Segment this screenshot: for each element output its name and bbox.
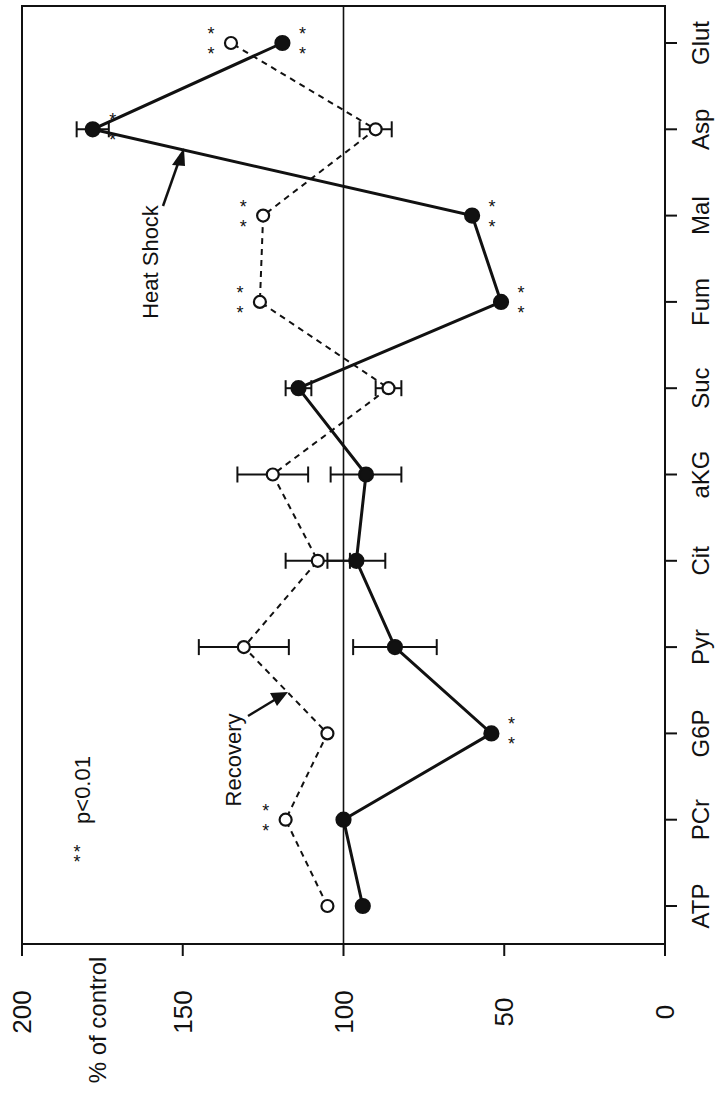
heat-shock-point [356,899,370,913]
significance-star: * [236,283,243,303]
significance-star: * [207,24,214,44]
recovery-point [254,296,266,308]
significance-star: * [240,197,247,217]
significance-star: * [109,130,116,150]
significance-star: * [299,24,306,44]
category-tick-label: G6P [687,709,714,757]
significance-star: * [299,44,306,64]
significance-star: * [240,217,247,237]
significance-star: * [489,197,496,217]
category-tick-label: Mal [687,196,714,235]
recovery-point [267,469,279,481]
p-value-note: p<0.01 [70,756,95,824]
significance-star: * [508,734,515,754]
category-tick-label: Fum [687,278,714,326]
category-tick-label: ATP [687,884,714,929]
recovery-arrowhead [270,692,288,706]
heat-shock-point [275,36,289,50]
significance-star: * [518,283,525,303]
category-tick-label: Glut [687,21,714,65]
heat-shock-label: Heat Shock [138,204,163,319]
value-tick-label: 150 [168,990,198,1033]
recovery-point [238,641,250,653]
category-tick-label: Suc [687,368,714,409]
heat-shock-point [484,726,498,740]
heat-shock-point [388,640,402,654]
heat-shock-point [86,122,100,136]
annotations: Heat ShockRecovery**p<0.01 [70,148,289,872]
value-tick-label: 100 [329,990,359,1033]
recovery-point [280,814,292,826]
heat-shock-arrowhead [172,148,185,166]
significance-star: * [518,303,525,323]
heat-shock-point [465,209,479,223]
significance-star: * [207,44,214,64]
significance-star: * [262,821,269,841]
significance-star: * [489,217,496,237]
recovery-label: Recovery [221,714,246,807]
category-tick-label: aKG [687,450,714,498]
heat-shock-point [337,813,351,827]
significance-star: * [508,714,515,734]
heat-shock-point [349,554,363,568]
heat-shock-point [359,468,373,482]
recovery-point [312,555,324,567]
category-tick-label: Asp [687,109,714,150]
heat-shock-point [494,295,508,309]
axis-ticks: 050100150200% of controlATPPCrG6PPyrCita… [7,21,714,1084]
category-tick-label: Cit [687,546,714,576]
recovery-point [321,727,333,739]
recovery-point [321,900,333,912]
recovery-point [225,37,237,49]
recovery-point [370,123,382,135]
recovery-point [383,382,395,394]
heat-shock-point [291,381,305,395]
p-value-star: * [73,842,80,862]
value-tick-label: 50 [489,998,519,1027]
value-tick-label: 200 [7,990,37,1033]
significance-star: * [236,303,243,323]
chart: 050100150200% of controlATPPCrG6PPyrCita… [0,0,728,1104]
significance-star: * [109,110,116,130]
recovery-point [257,210,269,222]
value-axis-label: % of control [84,957,111,1084]
category-tick-label: Pyr [687,629,714,665]
significance-star: * [262,801,269,821]
category-tick-label: PCr [687,799,714,840]
value-tick-label: 0 [650,1005,680,1019]
